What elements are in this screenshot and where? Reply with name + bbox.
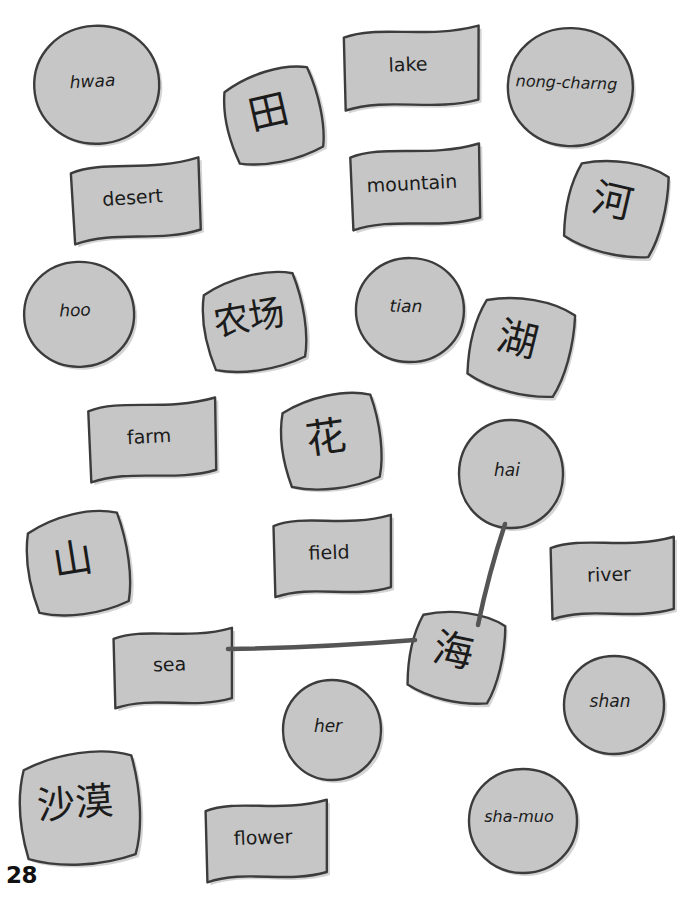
- link-sea-to-hai-hanzi: [228, 640, 415, 649]
- card-shape-diamond: [208, 50, 338, 180]
- card-hu-hanzi[interactable]: 湖: [455, 276, 581, 402]
- card-hwaa[interactable]: hwaa: [27, 19, 158, 143]
- card-shape-banner: [267, 510, 400, 602]
- card-shape-circle: [465, 765, 581, 877]
- card-shape-banner: [81, 392, 225, 487]
- card-shape-diamond: [267, 378, 393, 503]
- card-he-hanzi[interactable]: 河: [552, 140, 674, 262]
- card-shape-diamond: [550, 140, 682, 272]
- card-shan[interactable]: shan: [560, 652, 660, 750]
- card-nongchang[interactable]: 农场: [188, 258, 310, 379]
- card-hai-hanzi[interactable]: 海: [396, 592, 510, 708]
- card-nong-charng[interactable]: nong-charng: [502, 22, 631, 144]
- card-field[interactable]: field: [267, 510, 392, 594]
- card-shape-diamond: [8, 737, 151, 876]
- card-flower[interactable]: flower: [199, 795, 328, 879]
- card-sha-muo[interactable]: sha-muo: [465, 765, 573, 869]
- card-shape-diamond: [188, 256, 320, 386]
- card-shape-banner: [107, 623, 241, 714]
- worksheet-canvas: hwaalakenong-charng田desertmountain河hoo农场…: [0, 0, 689, 905]
- card-shamo-hanzi[interactable]: 沙漠: [8, 738, 142, 868]
- card-mountain[interactable]: mountain: [343, 139, 481, 228]
- card-shape-circle: [279, 676, 385, 784]
- card-desert[interactable]: desert: [63, 152, 201, 241]
- card-hai[interactable]: hai: [455, 416, 559, 524]
- card-shape-circle: [18, 256, 140, 373]
- card-shape-banner: [199, 795, 336, 888]
- card-shape-diamond: [12, 495, 143, 629]
- card-lake[interactable]: lake: [337, 21, 480, 108]
- card-shape-circle: [27, 18, 166, 151]
- card-farm[interactable]: farm: [81, 393, 217, 480]
- card-tian-hanzi[interactable]: 田: [208, 52, 328, 172]
- card-shape-banner: [544, 532, 683, 625]
- card-shape-circle: [351, 253, 469, 367]
- card-hua-hanzi[interactable]: 花: [267, 379, 384, 494]
- card-sea[interactable]: sea: [107, 623, 233, 705]
- page-number: 28: [6, 862, 37, 888]
- card-shape-banner: [343, 138, 490, 235]
- card-shape-diamond: [453, 276, 589, 412]
- card-shape-circle: [560, 652, 668, 758]
- card-river[interactable]: river: [544, 532, 675, 616]
- card-hoo[interactable]: hoo: [18, 256, 132, 365]
- cut-off-header-text: [0, 0, 689, 6]
- card-shape-banner: [337, 20, 488, 115]
- card-shape-circle: [455, 416, 567, 532]
- card-shape-banner: [63, 152, 210, 250]
- card-her[interactable]: her: [279, 676, 377, 776]
- card-shape-circle: [502, 22, 639, 153]
- card-shape-diamond: [394, 592, 518, 717]
- card-shan-hanzi[interactable]: 山: [12, 496, 134, 621]
- card-tian[interactable]: tian: [351, 253, 461, 359]
